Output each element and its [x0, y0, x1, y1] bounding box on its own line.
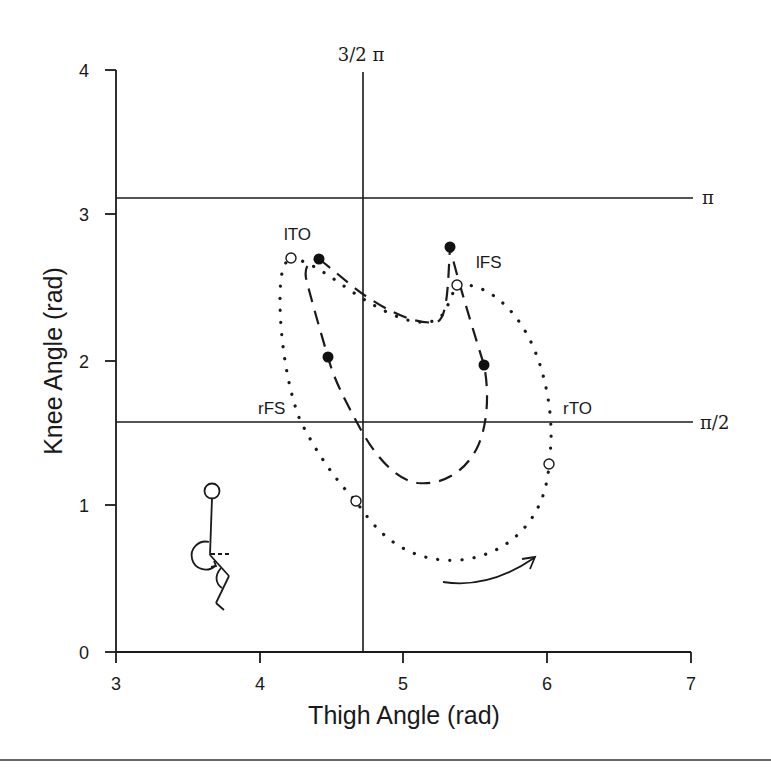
open-marker — [544, 459, 554, 469]
annotation-rFS: rFS — [258, 399, 285, 418]
phase-plot: 4 3 2 1 0 3 4 5 6 7 Thigh Angle (rad) Kn… — [0, 0, 771, 772]
open-markers — [286, 253, 554, 506]
open-marker — [452, 280, 462, 290]
x-axis-title: Thigh Angle (rad) — [308, 701, 500, 729]
annotation-rTO: rTO — [563, 399, 592, 418]
annotation-lTO: lTO — [284, 225, 311, 244]
filled-marker — [323, 352, 334, 363]
x-tick-label: 4 — [255, 674, 265, 694]
ref-label-three-halves-pi: 3/2 π — [338, 44, 385, 65]
open-marker — [351, 496, 361, 506]
x-tick-label: 7 — [686, 674, 696, 694]
stick-figure-leg-icon — [192, 484, 231, 611]
ref-label-pi: π — [702, 187, 714, 208]
y-tick-label: 3 — [79, 205, 89, 225]
x-tick-label: 3 — [111, 674, 121, 694]
x-tick-label: 5 — [398, 674, 408, 694]
y-tick-label: 2 — [79, 352, 89, 372]
filled-markers — [314, 242, 490, 371]
axes — [105, 70, 691, 663]
x-tick-label: 6 — [542, 674, 552, 694]
y-tick-label: 4 — [79, 61, 89, 81]
direction-arrow-icon — [443, 557, 535, 583]
y-tick-label: 1 — [79, 496, 89, 516]
filled-marker — [445, 242, 456, 253]
reference-lines — [116, 72, 693, 652]
dotted-trajectory — [280, 258, 551, 560]
annotation-lFS: lFS — [476, 253, 502, 272]
y-axis-title: Knee Angle (rad) — [39, 267, 67, 455]
filled-marker — [479, 360, 490, 371]
filled-marker — [314, 254, 325, 265]
ref-label-half-pi: π/2 — [700, 412, 729, 433]
open-marker — [286, 253, 296, 263]
y-tick-label: 0 — [79, 643, 89, 663]
